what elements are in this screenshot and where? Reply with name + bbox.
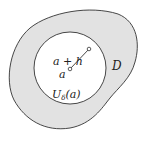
point-a-plus-h: [87, 47, 91, 51]
neighborhood-arg: (a): [66, 88, 81, 101]
point-a-plus-h-label: a + h: [53, 55, 83, 68]
neighborhood-diagram: a + h a D Uδ(a): [0, 0, 143, 141]
region-d-label: D: [111, 59, 122, 73]
neighborhood-label: Uδ(a): [52, 88, 81, 102]
point-a-label: a: [59, 68, 66, 81]
